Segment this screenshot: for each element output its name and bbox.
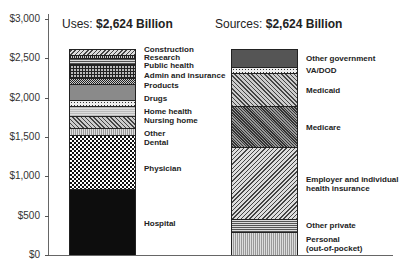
y-tick-label: $2,000 — [0, 92, 40, 103]
bar-segment-medicaid — [232, 73, 297, 106]
bar-segment-personal-out-of-pocket- — [232, 232, 297, 255]
label-employer-insurance-line2: health insurance — [306, 184, 370, 193]
label-medicare: Medicare — [306, 123, 341, 132]
label-hospital: Hospital — [144, 219, 176, 228]
uses-stacked-bar — [69, 49, 136, 255]
uses-title: Uses: $2,624 Billion — [62, 17, 173, 31]
bar-segment-research — [70, 55, 135, 58]
bar-segment-admin-and-insurance — [70, 64, 135, 78]
bar-segment-nursing-home — [70, 106, 135, 116]
bar-segment-home-health — [70, 100, 135, 106]
bar-segment-public-health — [70, 58, 135, 64]
bar-segment-physician — [70, 135, 135, 189]
y-tick-mark — [45, 98, 49, 99]
label-home-health: Home health — [144, 107, 192, 116]
label-nursing-home: Nursing home — [144, 116, 198, 125]
y-tick-mark — [45, 176, 49, 177]
bar-segment-employer-and-individual-health-insurance — [232, 147, 297, 219]
x-axis — [48, 255, 393, 256]
y-tick-label: $0 — [0, 249, 40, 260]
bar-segment-medicare — [232, 106, 297, 147]
label-other-government: Other government — [306, 54, 375, 63]
label-medicaid: Medicaid — [306, 86, 340, 95]
y-tick-label: $2,500 — [0, 52, 40, 63]
bar-segment-dental — [70, 128, 135, 135]
y-axis — [48, 14, 49, 256]
y-tick-label: $1,500 — [0, 131, 40, 142]
label-physician: Physician — [144, 164, 181, 173]
y-tick-mark — [45, 137, 49, 138]
y-tick-mark — [45, 216, 49, 217]
sources-title: Sources: $2,624 Billion — [215, 17, 342, 31]
label-public-health: Public health — [144, 61, 194, 70]
y-tick-label: $1,000 — [0, 170, 40, 181]
label-other: Other — [144, 129, 165, 138]
bar-segment-other — [70, 116, 135, 128]
bar-segment-construction — [70, 49, 135, 56]
label-admin-insurance: Admin and insurance — [144, 71, 225, 80]
label-personal-line2: (out-of-pocket) — [306, 244, 362, 253]
label-va-dod: VA/DOD — [306, 66, 337, 75]
label-drugs: Drugs — [144, 94, 167, 103]
label-products: Products — [144, 81, 179, 90]
bar-segment-products — [70, 78, 135, 84]
y-tick-mark — [45, 58, 49, 59]
label-employer-insurance-line1: Employer and individual — [306, 175, 398, 184]
label-other-private: Other private — [306, 221, 356, 230]
y-tick-mark — [45, 255, 49, 256]
sources-stacked-bar — [231, 49, 298, 255]
bar-segment-other-private — [232, 219, 297, 232]
bar-segment-drugs — [70, 84, 135, 100]
bar-segment-other-government — [232, 49, 297, 68]
bar-segment-va-dod — [232, 67, 297, 73]
label-dental: Dental — [144, 138, 168, 147]
bar-segment-hospital — [70, 189, 135, 255]
label-personal-line1: Personal — [306, 235, 340, 244]
y-tick-label: $500 — [0, 210, 40, 221]
y-tick-label: $3,000 — [0, 13, 40, 24]
health-spending-chart: $0$500$1,000$1,500$2,000$2,500$3,000 Use… — [0, 0, 410, 273]
y-tick-mark — [45, 19, 49, 20]
